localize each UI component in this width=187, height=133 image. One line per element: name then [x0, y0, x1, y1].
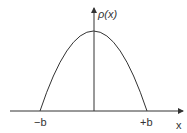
right-root-label: +b: [140, 116, 153, 128]
left-root-label: −b: [34, 116, 47, 128]
x-axis-label: x: [176, 119, 182, 131]
parabola-diagram: ρ(x) −b +b x: [0, 0, 187, 133]
y-axis-label: ρ(x): [97, 8, 117, 20]
